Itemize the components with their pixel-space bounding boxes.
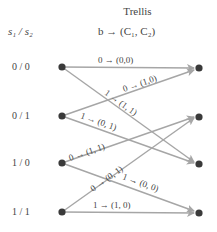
edge-label-10-11: 1 → (0, 0) [121,171,160,193]
node-left-01 [58,112,65,119]
node-right-00 [195,64,202,71]
edge-label-00-00: 0 → (0,0) [98,55,133,65]
node-right-11 [195,209,202,216]
node-left-11 [58,208,65,215]
node-right-10 [195,160,202,167]
node-left-10 [58,159,65,166]
edge-00-to-00 [62,67,194,68]
edge-label-11-01: 0 → (0, 1) [88,164,124,194]
trellis-graph: 0 → (0,0) 1 → (1, 1) 0 → (1,0) 1 → (0, 1… [0,0,217,232]
edge-label-00-10: 1 → (1, 1) [103,88,139,118]
edge-11-to-11 [62,212,194,213]
edge-label-11-11: 1 → (1, 0) [93,200,131,210]
node-right-01 [195,113,202,120]
edge-label-01-00: 0 → (1,0) [121,73,158,94]
edge-label-10-01: 0 → (1, 1) [67,141,106,163]
edge-11-to-01 [62,118,194,212]
node-left-00 [58,63,65,70]
